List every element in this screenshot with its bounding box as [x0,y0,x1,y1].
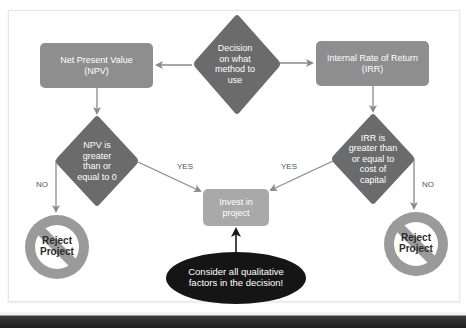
npv-test-label: NPV isgreater than orequal to 0 [67,138,127,184]
reject-right-label: RejectProject [392,232,440,254]
qualitative-label: Consider all qualitativefactors in the d… [170,262,302,292]
irr-box-label: Internal Rate of Return(IRR) [316,41,429,86]
irr-yes-label: YES [281,162,297,171]
irr-test-label: IRR isgreater than or equal tocost of ca… [340,131,406,187]
npv-yes-label: YES [177,162,193,171]
npv-no-label: NO [36,180,48,189]
npv-box-label: Net Present Value(NPV) [40,43,153,88]
decision-label: Decisionon what method touse [205,42,265,86]
invest-box-label: Invest inproject [203,189,269,226]
reject-left-label: RejectProject [33,235,81,257]
irr-no-label: NO [422,180,434,189]
